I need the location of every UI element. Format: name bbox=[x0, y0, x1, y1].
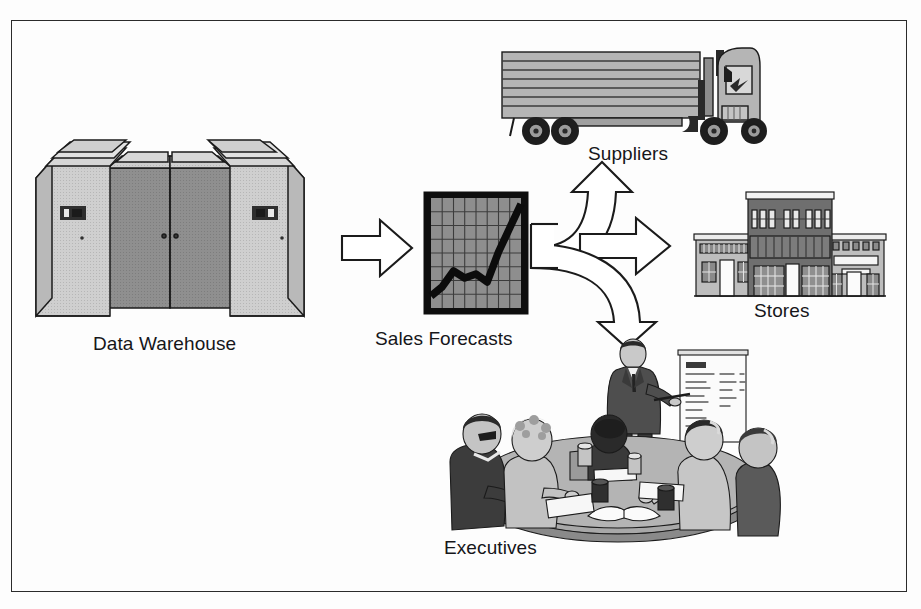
semi-truck-icon bbox=[492, 36, 762, 148]
node-stores bbox=[692, 190, 888, 302]
right-block-arrow-icon bbox=[342, 220, 412, 276]
label-executives: Executives bbox=[444, 537, 537, 559]
boardroom-meeting-icon bbox=[448, 330, 784, 542]
label-suppliers: Suppliers bbox=[588, 143, 668, 165]
label-data-warehouse: Data Warehouse bbox=[93, 333, 236, 355]
label-stores: Stores bbox=[754, 300, 810, 322]
attendee-5 bbox=[736, 428, 781, 536]
retail-building-icon bbox=[692, 190, 888, 302]
connector-three-way-arrow bbox=[528, 162, 674, 348]
diagram-canvas: Data Warehouse bbox=[0, 0, 921, 609]
node-sales-forecasts bbox=[422, 190, 530, 316]
node-executives bbox=[448, 330, 784, 542]
line-chart-icon bbox=[422, 190, 530, 316]
node-suppliers bbox=[492, 36, 762, 148]
node-data-warehouse bbox=[30, 138, 350, 334]
connector-warehouse-to-forecasts bbox=[340, 212, 418, 284]
mainframe-cabinets-icon bbox=[36, 140, 304, 316]
three-way-block-arrow-icon bbox=[528, 162, 674, 348]
